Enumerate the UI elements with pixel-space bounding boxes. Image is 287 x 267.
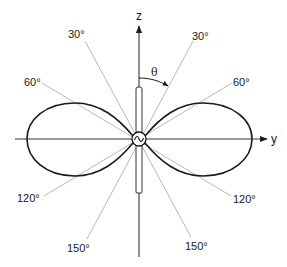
y-axis-label: y (271, 132, 277, 146)
label-150-lower-right: 150° (185, 240, 208, 252)
radiation-pattern-diagram: z y θ 30° 30° 60° 60° 120° 120° 150° 150… (0, 0, 287, 267)
ac-source (132, 132, 146, 146)
theta-arc (139, 78, 168, 86)
label-30-upper-left: 30° (68, 28, 85, 40)
label-60-right: 60° (233, 76, 250, 88)
z-axis-label: z (136, 9, 142, 23)
label-150-lower-left: 150° (67, 242, 90, 254)
antenna-upper-rod (136, 87, 142, 133)
label-120-right: 120° (233, 193, 256, 205)
label-30-upper-right: 30° (192, 30, 209, 42)
theta-label: θ (151, 66, 158, 79)
antenna-lower-rod (136, 145, 142, 193)
label-120-left: 120° (17, 192, 40, 204)
label-60-left: 60° (24, 76, 41, 88)
